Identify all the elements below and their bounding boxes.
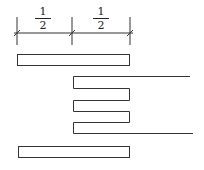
numerator: 1 <box>93 6 109 17</box>
top-bar <box>18 55 130 66</box>
bottom-bar <box>19 147 130 158</box>
denominator: 2 <box>35 20 51 31</box>
serpentine-path <box>74 77 194 134</box>
dimension-label-left: 1 2 <box>35 6 51 31</box>
denominator: 2 <box>93 20 109 31</box>
numerator: 1 <box>35 6 51 17</box>
dimension-label-right: 1 2 <box>93 6 109 31</box>
